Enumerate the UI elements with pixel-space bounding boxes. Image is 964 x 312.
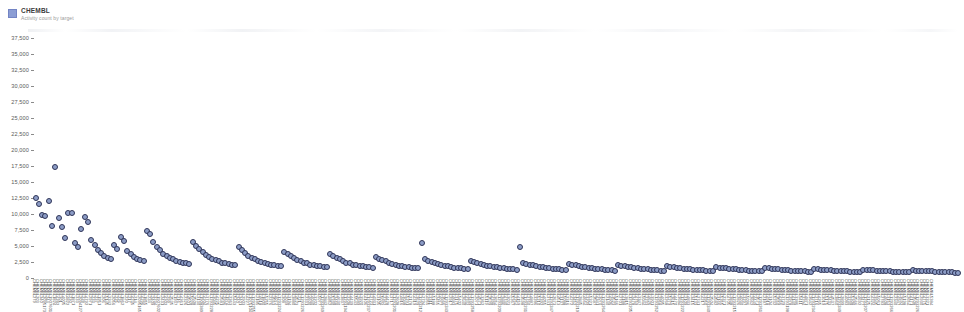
y-axis-tick-label: 5,000: [15, 243, 30, 249]
data-point[interactable]: [563, 267, 569, 273]
y-axis-tick: 30,000: [11, 82, 34, 90]
data-point[interactable]: [186, 261, 192, 267]
data-point[interactable]: [612, 268, 618, 274]
y-axis-tick: 15,000: [11, 178, 34, 186]
y-axis-tick: 22,500: [11, 130, 34, 138]
y-axis-tick: 37,500: [11, 34, 34, 42]
data-point[interactable]: [419, 240, 425, 246]
data-point[interactable]: [114, 246, 120, 252]
y-axis-tick-label: 10,000: [11, 211, 29, 217]
y-axis-tick: 2,500: [15, 258, 35, 266]
y-axis-tick: 32,500: [11, 66, 34, 74]
data-point[interactable]: [69, 210, 75, 216]
data-point[interactable]: [108, 256, 114, 262]
data-point[interactable]: [278, 263, 284, 269]
y-axis-tick-label: 17,500: [11, 163, 29, 169]
data-point[interactable]: [514, 267, 520, 273]
y-axis-tick-label: 7,500: [15, 227, 30, 233]
data-point[interactable]: [465, 266, 471, 272]
y-axis-tick-label: 15,000: [11, 179, 29, 185]
y-axis-tick: 25,000: [11, 114, 34, 122]
data-point[interactable]: [56, 215, 62, 221]
y-axis-tick-label: 20,000: [11, 147, 29, 153]
data-point[interactable]: [52, 164, 58, 170]
data-point[interactable]: [59, 224, 65, 230]
y-axis-tick: 17,500: [11, 162, 34, 170]
y-axis-tick-label: 32,500: [11, 67, 29, 73]
y-axis-tick: 27,500: [11, 98, 34, 106]
x-axis: CHEMBL279CHEMBL203CHEMBL340CHEMBL2095173…: [34, 279, 960, 308]
data-point[interactable]: [141, 258, 147, 264]
y-axis-tick: 5,000: [15, 242, 35, 250]
y-axis-tick-label: 25,000: [11, 115, 29, 121]
y-axis-tick: 20,000: [11, 146, 34, 154]
data-point[interactable]: [517, 244, 523, 250]
render-artifact-band: [28, 29, 958, 32]
y-axis: 37,50035,00032,50030,00027,50025,00022,5…: [0, 0, 34, 308]
data-point[interactable]: [42, 213, 48, 219]
y-axis-tick-label: 35,000: [11, 51, 29, 57]
data-point[interactable]: [49, 223, 55, 229]
data-point[interactable]: [370, 265, 376, 271]
y-axis-tick: 12,500: [11, 194, 34, 202]
y-axis-tick-label: 2,500: [15, 259, 30, 265]
y-axis-tick: 35,000: [11, 50, 34, 58]
data-point[interactable]: [232, 262, 238, 268]
data-point[interactable]: [78, 226, 84, 232]
y-axis-tick-label: 0: [26, 275, 29, 281]
y-axis-tick-label: 27,500: [11, 99, 29, 105]
y-axis-tick-label: 37,500: [11, 35, 29, 41]
y-axis-tick-label: 22,500: [11, 131, 29, 137]
data-point[interactable]: [324, 264, 330, 270]
plot-area[interactable]: [34, 38, 960, 278]
data-point[interactable]: [75, 244, 81, 250]
data-point[interactable]: [415, 265, 421, 271]
data-point[interactable]: [955, 270, 961, 276]
data-point[interactable]: [46, 198, 52, 204]
y-axis-tick-label: 12,500: [11, 195, 29, 201]
y-axis-tick-label: 30,000: [11, 83, 29, 89]
y-axis-tick: 10,000: [11, 210, 34, 218]
y-axis-tick: 7,500: [15, 226, 35, 234]
data-point[interactable]: [85, 219, 91, 225]
data-point[interactable]: [121, 238, 127, 244]
data-point[interactable]: [62, 235, 68, 241]
data-point[interactable]: [36, 201, 42, 207]
data-point[interactable]: [147, 231, 153, 237]
x-axis-tick-label: CHEMBL5384: [929, 279, 934, 305]
